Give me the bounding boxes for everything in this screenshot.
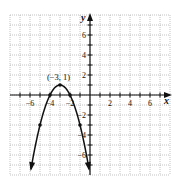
x-axis-label: x	[163, 95, 169, 106]
x-tick-label: 6	[148, 99, 152, 108]
x-tick-label: −6	[26, 99, 35, 108]
data-point	[78, 123, 82, 127]
y-axis-label: y	[80, 12, 86, 23]
data-point	[38, 123, 42, 127]
y-axis-arrow-icon	[87, 13, 93, 21]
x-tick-label: 2	[108, 99, 112, 108]
y-tick-label: 4	[82, 51, 86, 60]
y-tick-label: 6	[82, 31, 86, 40]
y-tick-label: 2	[82, 71, 86, 80]
vertex-label: (−3, 1)	[47, 72, 70, 82]
y-tick-label: −6	[77, 151, 86, 160]
data-point	[58, 83, 62, 87]
data-point	[48, 93, 52, 97]
x-tick-label: 4	[128, 99, 132, 108]
data-point	[68, 93, 72, 97]
parabola-graph: −6−4−2246−6−4−2246 y x (−3, 1)	[0, 0, 179, 187]
